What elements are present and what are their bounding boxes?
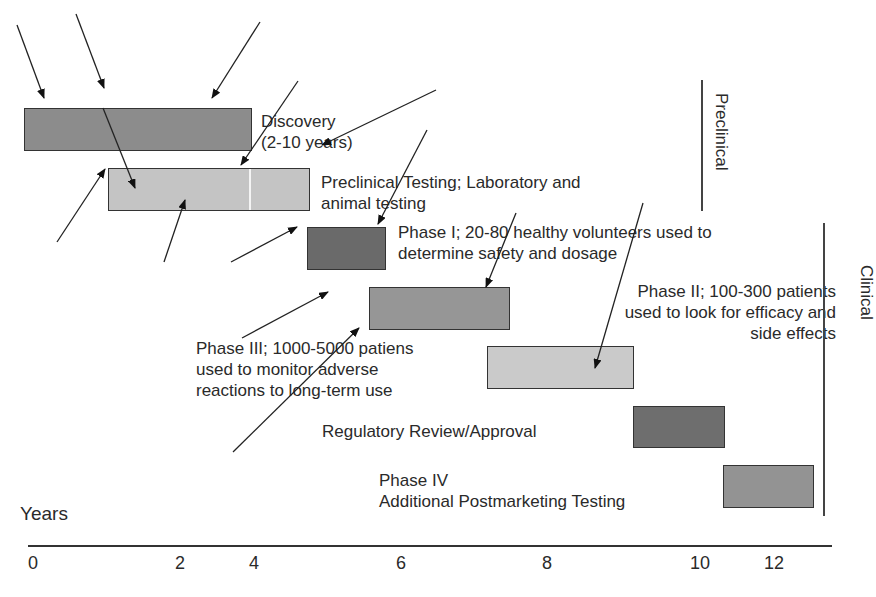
arrow-icon xyxy=(17,25,44,98)
clinical-group-label: Clinical xyxy=(856,265,876,320)
bar-discovery xyxy=(24,108,252,151)
arrow-icon xyxy=(76,14,104,88)
tick-10: 10 xyxy=(690,553,710,574)
clinical-bracket-line xyxy=(823,223,825,516)
bar-phase-2 xyxy=(369,287,510,330)
arrow-icon xyxy=(231,227,297,262)
tick-2: 2 xyxy=(175,553,185,574)
label-discovery: Discovery (2-10 years) xyxy=(261,111,353,153)
arrow-icon xyxy=(242,292,328,338)
label-phase-2: Phase II; 100-300 patients used to look … xyxy=(540,281,836,344)
arrow-icon xyxy=(212,22,260,98)
label-phase-3: Phase III; 1000-5000 patiens used to mon… xyxy=(196,338,413,401)
bar-preclinical-testing xyxy=(108,168,310,211)
preclinical-bracket-line xyxy=(701,80,703,211)
axis-label-years: Years xyxy=(20,503,68,524)
tick-4: 4 xyxy=(249,553,259,574)
bar-regulatory-review xyxy=(633,406,725,448)
tick-8: 8 xyxy=(542,553,552,574)
bar-divider xyxy=(249,169,251,210)
bar-phase-1 xyxy=(307,227,386,270)
label-preclinical-testing: Preclinical Testing; Laboratory and anim… xyxy=(321,172,581,214)
bar-phase-3 xyxy=(487,346,634,389)
label-phase-1: Phase I; 20-80 healthy volunteers used t… xyxy=(398,222,712,264)
preclinical-group-label: Preclinical xyxy=(711,93,731,170)
tick-6: 6 xyxy=(396,553,406,574)
label-regulatory-review: Regulatory Review/Approval xyxy=(322,421,537,442)
tick-12: 12 xyxy=(764,553,784,574)
label-phase-4: Phase IV Additional Postmarketing Testin… xyxy=(379,470,625,512)
tick-0: 0 xyxy=(28,553,38,574)
arrow-icon xyxy=(57,169,105,242)
bar-phase-4 xyxy=(723,465,814,508)
x-axis-line xyxy=(28,545,832,547)
